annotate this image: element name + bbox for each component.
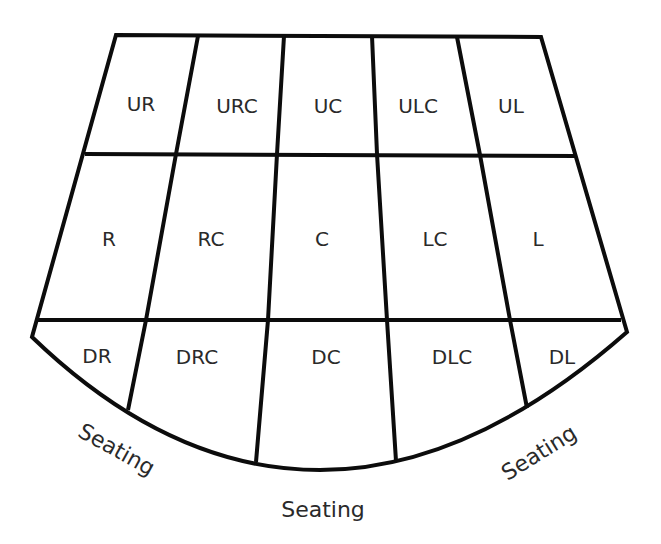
- row-divider-upper: [85, 154, 575, 156]
- area-rc: RC: [198, 227, 225, 251]
- area-r: R: [102, 227, 116, 251]
- area-urc: URC: [216, 94, 258, 118]
- stage-diagram: UR URC UC ULC UL R RC C LC L DR DRC DC D…: [0, 0, 661, 544]
- area-dr: DR: [82, 344, 111, 368]
- area-c: C: [315, 227, 329, 251]
- column-divider-3: [372, 36, 396, 461]
- area-l: L: [532, 227, 544, 251]
- area-dlc: DLC: [432, 345, 473, 369]
- column-divider-2: [256, 36, 284, 462]
- area-dl: DL: [549, 345, 576, 369]
- area-ul: UL: [498, 94, 525, 118]
- area-ulc: ULC: [398, 94, 438, 118]
- seating-label-right: Seating: [497, 420, 581, 486]
- area-dc: DC: [311, 345, 340, 369]
- seating-label-center: Seating: [281, 497, 365, 522]
- area-uc: UC: [314, 94, 343, 118]
- area-ur: UR: [127, 92, 156, 116]
- area-drc: DRC: [176, 345, 218, 369]
- seating-label-left: Seating: [74, 418, 159, 480]
- area-lc: LC: [422, 227, 447, 251]
